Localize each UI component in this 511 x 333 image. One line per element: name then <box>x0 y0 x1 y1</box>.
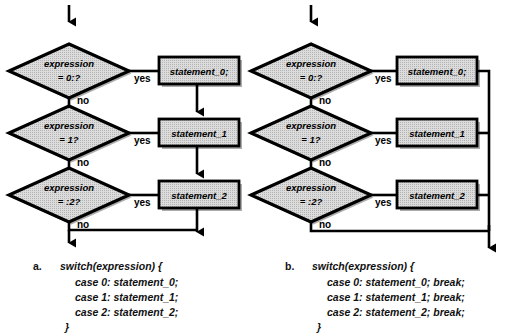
code-b-line-0: switch(expression) { <box>312 260 415 272</box>
decision-label-line1: expression <box>44 182 94 193</box>
panel-b-statement-2: statement_2 <box>397 181 480 211</box>
code-b-line-3: case 2: statement_2; break; <box>327 306 465 318</box>
caption-a-label: a. <box>33 260 42 272</box>
code-a-line-0: switch(expression) { <box>60 260 163 272</box>
code-b-line-2: case 1: statement_1; break; <box>327 291 465 303</box>
statement-label: statement_2 <box>409 190 465 201</box>
decision-label-line1: expression <box>286 182 336 193</box>
decision-label-line2: = :2? <box>300 196 323 207</box>
code-a-line-4: } <box>64 321 69 333</box>
statement-label: statement_1 <box>409 128 464 139</box>
decision-label-line1: expression <box>286 120 336 131</box>
flowchart-svg: expression = 0:? yes no expression = 1? … <box>0 0 511 333</box>
panel-b-yes-label-1: yes <box>375 135 392 146</box>
panel-a-yes-label-2: yes <box>134 197 151 208</box>
decision-label-line2: = 0:? <box>300 72 323 83</box>
code-a-line-1: case 0: statement_0; <box>75 276 178 288</box>
decision-label-line2: = 1? <box>59 134 78 145</box>
panel-b-yes-label-0: yes <box>375 73 392 84</box>
decision-label-line2: = 1? <box>301 134 320 145</box>
panel-b-statement-0: statement_0; <box>397 57 480 87</box>
decision-label-line1: expression <box>44 120 94 131</box>
panel-b-yes-label-2: yes <box>375 197 392 208</box>
code-a-line-3: case 2: statement_2; <box>75 306 178 318</box>
code-b-line-1: case 0: statement_0; break; <box>327 276 465 288</box>
statement-label: statement_1 <box>171 128 226 139</box>
panel-a-statement-0: statement_0; <box>159 57 242 87</box>
decision-label-line2: = 0:? <box>58 72 81 83</box>
panel-a-no-label-1: no <box>77 157 89 168</box>
panel-b-no-label-1: no <box>319 157 331 168</box>
code-b-line-4: } <box>316 321 321 333</box>
decision-label-line1: expression <box>44 58 94 69</box>
panel-b-statement-1: statement_1 <box>397 119 480 149</box>
figure-canvas: expression = 0:? yes no expression = 1? … <box>0 0 511 333</box>
caption-b-label: b. <box>285 260 294 272</box>
panel-b-no-label-2: no <box>319 219 331 230</box>
panel-b-no-label-0: no <box>319 95 331 106</box>
panel-a-yes-label-0: yes <box>134 73 151 84</box>
decision-label-line2: = :2? <box>58 196 81 207</box>
panel-a-no-label-0: no <box>77 95 89 106</box>
statement-label: statement_2 <box>171 190 227 201</box>
statement-label: statement_0; <box>170 66 229 77</box>
panel-a-statement-1: statement_1 <box>159 119 242 149</box>
panel-a-no-label-2: no <box>77 219 89 230</box>
decision-label-line1: expression <box>286 58 336 69</box>
code-a-line-2: case 1: statement_1; <box>75 291 178 303</box>
panel-a-yes-label-1: yes <box>134 135 151 146</box>
statement-label: statement_0; <box>408 66 467 77</box>
panel-a-statement-2: statement_2 <box>159 181 242 211</box>
